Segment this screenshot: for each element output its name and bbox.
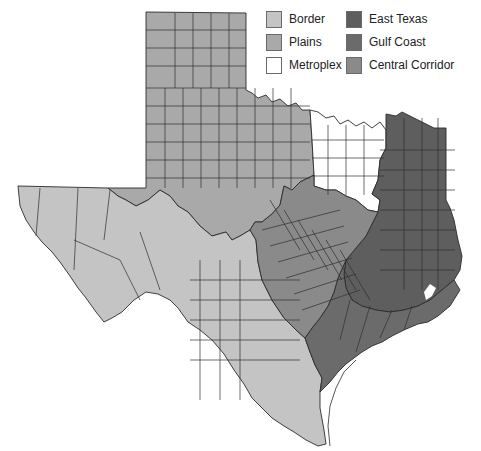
legend-swatch-metroplex — [266, 57, 282, 74]
legend-item-east-texas: East Texas — [346, 10, 427, 28]
legend-item-gulf-coast: Gulf Coast — [346, 33, 426, 51]
legend-swatch-east-texas — [346, 11, 362, 28]
legend-swatch-plains — [266, 34, 282, 51]
legend-item-metroplex: Metroplex — [266, 56, 342, 74]
legend-label-gulf-coast: Gulf Coast — [369, 35, 426, 49]
legend-swatch-gulf-coast — [346, 34, 362, 51]
legend-swatch-border — [266, 11, 282, 28]
legend-label-border: Border — [289, 12, 325, 26]
legend-label-central-corridor: Central Corridor — [369, 58, 454, 72]
legend-label-east-texas: East Texas — [369, 12, 427, 26]
legend-swatch-central-corridor — [346, 57, 362, 74]
legend-item-central-corridor: Central Corridor — [346, 56, 454, 74]
legend-item-plains: Plains — [266, 33, 322, 51]
legend-label-plains: Plains — [289, 35, 322, 49]
legend-label-metroplex: Metroplex — [289, 58, 342, 72]
legend: Border Plains Metroplex East Texas Gulf … — [266, 10, 476, 80]
legend-item-border: Border — [266, 10, 325, 28]
